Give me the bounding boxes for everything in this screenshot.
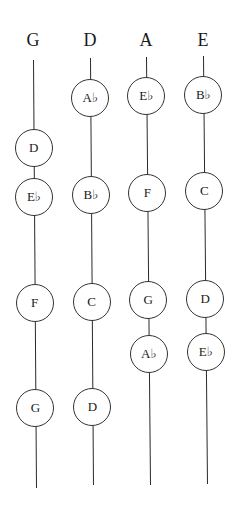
note-circle: A♭ [71, 79, 109, 117]
note-circle: A♭ [130, 335, 168, 373]
note-circle: B♭ [72, 176, 110, 214]
note-circle: G [16, 389, 54, 427]
note-circle: E♭ [127, 77, 165, 115]
note-circle: F [128, 174, 166, 212]
string-label-a: A [131, 30, 161, 50]
note-circle: D [15, 129, 53, 167]
note-circle: D [186, 280, 224, 318]
note-circle: D [73, 388, 111, 426]
note-circle: G [129, 281, 167, 319]
note-circle: E♭ [187, 333, 225, 371]
string-label-d: D [75, 30, 105, 50]
note-circle: E♭ [15, 178, 53, 216]
string-label-g: G [18, 30, 48, 50]
string-line-e [203, 56, 208, 484]
string-line-a [146, 57, 151, 485]
note-circle: C [185, 172, 223, 210]
note-circle: F [16, 284, 54, 322]
note-circle: C [73, 283, 111, 321]
string-label-e: E [188, 30, 218, 50]
note-circle: B♭ [184, 76, 222, 114]
